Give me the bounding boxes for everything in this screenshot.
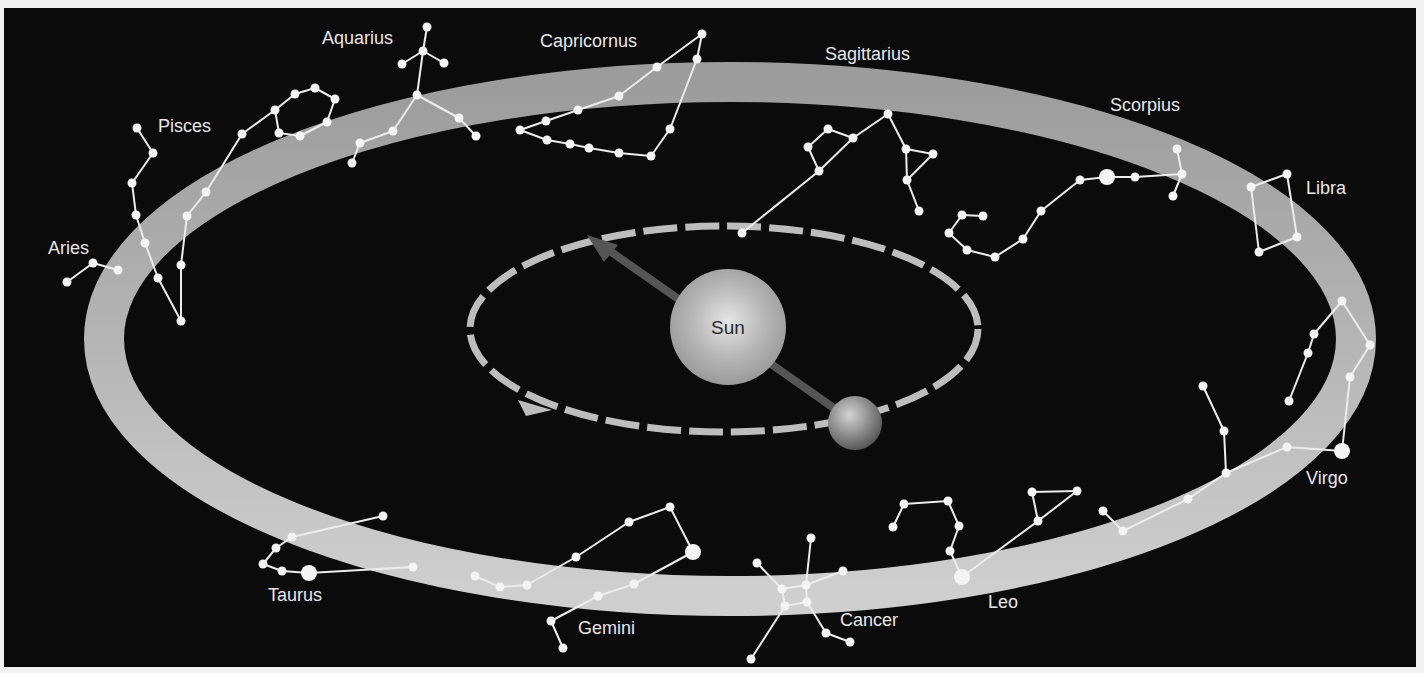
star-icon	[183, 212, 192, 221]
label-scorpius: Scorpius	[1110, 95, 1180, 115]
star-icon	[1304, 349, 1313, 358]
star-icon	[929, 150, 938, 159]
star-icon	[1285, 397, 1294, 406]
star-icon	[946, 547, 955, 556]
star-icon	[177, 317, 186, 326]
star-icon	[1283, 443, 1292, 452]
star-icon	[1222, 469, 1231, 478]
star-icon	[815, 167, 824, 176]
label-sagittarius: Sagittarius	[825, 44, 910, 64]
star-icon	[202, 188, 211, 197]
constellation-line	[132, 183, 136, 215]
star-icon	[839, 567, 848, 576]
star-icon	[698, 30, 707, 39]
constellation-line	[742, 171, 819, 233]
star-icon	[259, 560, 268, 569]
star-icon	[177, 261, 186, 270]
star-icon	[63, 278, 72, 287]
star-icon	[747, 655, 756, 664]
zodiac-diagram: Sun AriesPiscesAquariusCapricornusSagitt…	[0, 0, 1424, 673]
star-icon	[1178, 170, 1187, 179]
constellation-line	[158, 278, 181, 321]
star-icon	[516, 126, 525, 135]
star-icon	[778, 585, 787, 594]
star-icon	[472, 132, 481, 141]
star-icon	[1346, 373, 1355, 382]
label-virgo: Virgo	[1306, 468, 1348, 488]
star-icon	[288, 533, 297, 542]
constellation-line	[995, 239, 1023, 257]
constellation-line	[1041, 180, 1080, 211]
constellation-line	[853, 114, 888, 138]
star-icon	[824, 125, 833, 134]
star-icon	[348, 159, 357, 168]
constellation-line	[589, 148, 619, 153]
star-icon	[666, 503, 675, 512]
star-icon	[653, 63, 662, 72]
star-icon	[693, 55, 702, 64]
star-icon	[356, 139, 365, 148]
star-icon	[114, 266, 123, 275]
star-icon	[574, 106, 583, 115]
constellation-line	[417, 51, 423, 95]
bright-star-icon	[954, 569, 970, 585]
star-icon	[1034, 517, 1043, 526]
star-icon	[944, 497, 953, 506]
star-icon	[272, 544, 281, 553]
constellation-line	[904, 501, 948, 504]
star-icon	[1247, 183, 1256, 192]
constellation-line	[132, 153, 153, 183]
star-icon	[630, 580, 639, 589]
label-gemini: Gemini	[578, 618, 635, 638]
star-icon	[149, 149, 158, 158]
star-icon	[323, 118, 332, 127]
star-icon	[89, 259, 98, 268]
star-icon	[625, 518, 634, 527]
star-icon	[585, 144, 594, 153]
star-icon	[1131, 173, 1140, 182]
star-icon	[849, 134, 858, 143]
constellation-line	[619, 153, 651, 156]
bright-star-icon	[1334, 443, 1350, 459]
star-icon	[884, 110, 893, 119]
star-icon	[291, 90, 300, 99]
star-icon	[963, 246, 972, 255]
label-capricornus: Capricornus	[540, 31, 637, 51]
star-icon	[958, 211, 967, 220]
star-icon	[440, 59, 449, 68]
star-icon	[419, 47, 428, 56]
constellation-line	[888, 114, 906, 149]
label-pisces: Pisces	[158, 116, 211, 136]
constellation-line	[629, 507, 670, 522]
star-icon	[903, 176, 912, 185]
bright-star-icon	[301, 565, 317, 581]
bright-star-icon	[685, 544, 701, 560]
constellation-line	[1203, 386, 1224, 431]
constellation-sagittarius	[738, 110, 938, 238]
star-icon	[846, 638, 855, 647]
constellation-line	[242, 110, 275, 134]
bright-star-icon	[1099, 169, 1115, 185]
star-icon	[1199, 382, 1208, 391]
star-icon	[666, 125, 675, 134]
star-icon	[543, 136, 552, 145]
star-icon	[1366, 341, 1375, 350]
label-aquarius: Aquarius	[322, 28, 393, 48]
constellation-line	[907, 180, 919, 211]
star-icon	[278, 567, 287, 576]
star-icon	[154, 274, 163, 283]
constellation-line	[906, 149, 907, 180]
constellation-line	[819, 138, 853, 171]
star-icon	[1099, 507, 1108, 516]
star-icon	[1338, 297, 1347, 306]
star-icon	[133, 124, 142, 133]
constellation-line	[576, 522, 629, 557]
star-icon	[128, 179, 137, 188]
star-icon	[572, 553, 581, 562]
constellation-line	[651, 129, 670, 156]
star-icon	[900, 500, 909, 509]
star-icon	[1037, 207, 1046, 216]
sun: Sun	[670, 269, 786, 385]
earth-planet	[828, 396, 882, 450]
star-icon	[804, 143, 813, 152]
